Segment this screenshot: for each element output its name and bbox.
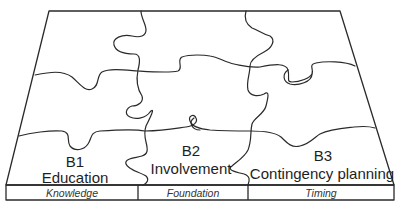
- block-b1-name: Education: [42, 169, 109, 186]
- block-b3-name: Contingency planning: [250, 165, 394, 182]
- block-b1-code: B1: [66, 153, 84, 170]
- base-label-timing: Timing: [305, 187, 337, 199]
- puzzle-seam-vertical-right: [230, 11, 273, 185]
- block-b2-name: Involvement: [151, 160, 233, 177]
- block-b2-code: B2: [182, 142, 200, 159]
- puzzle-seam-horizontal-upper: [35, 55, 355, 90]
- puzzle-diagram: B1 Education B2 Involvement B3 Contingen…: [0, 0, 400, 207]
- puzzle-seam-vertical-left: [114, 11, 153, 185]
- block-b3-code: B3: [314, 147, 332, 164]
- base-label-knowledge: Knowledge: [46, 187, 98, 199]
- base-label-foundation: Foundation: [167, 187, 220, 199]
